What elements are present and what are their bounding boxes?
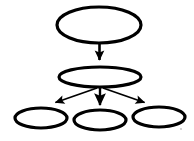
node-mid-ellipse[interactable]: [59, 67, 141, 87]
node-leaf-center[interactable]: [74, 110, 126, 130]
diagram-svg: [0, 0, 194, 141]
node-root[interactable]: [57, 7, 141, 43]
node-group: [15, 7, 185, 130]
node-leaf-center-ellipse[interactable]: [74, 110, 126, 130]
node-leaf-left-ellipse[interactable]: [15, 108, 67, 128]
node-mid[interactable]: [59, 67, 141, 87]
node-leaf-right[interactable]: [133, 107, 185, 127]
scan-speck-artifact: [180, 128, 182, 130]
diagram-canvas: [0, 0, 194, 141]
edge-mid-to-leaf-left: [56, 88, 98, 103]
node-leaf-right-ellipse[interactable]: [133, 107, 185, 127]
node-root-ellipse[interactable]: [57, 7, 141, 43]
edge-mid-to-leaf-right: [103, 88, 145, 103]
node-leaf-left[interactable]: [15, 108, 67, 128]
